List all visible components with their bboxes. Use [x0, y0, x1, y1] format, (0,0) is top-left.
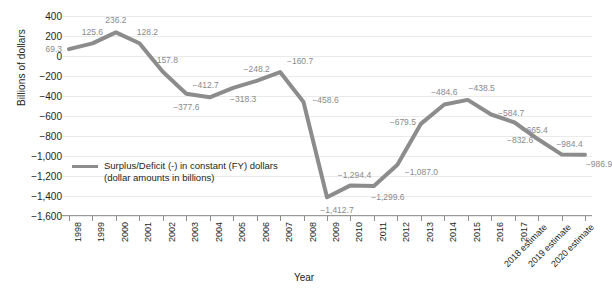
x-tick-label: 2016: [495, 222, 505, 242]
y-tick-label: −200: [16, 71, 62, 82]
data-point-label: −1,294.4: [338, 170, 371, 180]
x-tick-label: 2013: [425, 222, 435, 242]
x-tick-label: 2009: [331, 222, 341, 242]
y-tick-label: −1,200: [16, 171, 62, 182]
y-tick-label: −600: [16, 111, 62, 122]
data-point-label: −986.9: [586, 159, 612, 169]
x-axis-tick: [139, 216, 140, 221]
data-point-label: 236.2: [105, 15, 126, 25]
data-point-label: −1,299.6: [371, 192, 404, 202]
x-axis-tick: [163, 216, 164, 221]
y-tick-label: −800: [16, 131, 62, 142]
x-axis-tick: [421, 216, 422, 221]
x-tick-label: 2008: [308, 222, 318, 242]
x-axis-tick: [186, 216, 187, 221]
x-axis-tick: [257, 216, 258, 221]
x-tick-label: 2001: [143, 222, 153, 242]
x-tick-label: 2014: [448, 222, 458, 242]
x-tick-label: 2000: [120, 222, 130, 242]
first-point-label: 69.3: [16, 44, 62, 54]
data-point-label: −160.7: [287, 56, 313, 66]
data-point-label: −832.6: [507, 135, 533, 145]
x-axis-tick: [491, 216, 492, 221]
x-tick-label: 2012: [401, 222, 411, 242]
x-tick-label: 1999: [96, 222, 106, 242]
x-tick-label: 2011: [378, 222, 388, 241]
y-tick-label: 200: [16, 31, 62, 42]
x-axis-tick: [538, 216, 539, 221]
y-tick-label: −1,600: [16, 211, 62, 222]
data-point-label: −584.7: [498, 108, 524, 118]
y-tick-label: −1,000: [16, 151, 62, 162]
x-axis-tick: [69, 216, 70, 221]
x-axis-tick: [374, 216, 375, 221]
data-point-label: −438.5: [469, 83, 495, 93]
data-point-label: −665.4: [522, 125, 548, 135]
x-tick-label: 2007: [284, 222, 294, 242]
data-point-label: −377.6: [173, 102, 199, 112]
x-axis-tick: [350, 216, 351, 221]
x-axis-tick: [468, 216, 469, 221]
y-tick-label: −1,400: [16, 191, 62, 202]
x-axis-title: Year: [0, 272, 608, 283]
x-tick-label: 2015: [472, 222, 482, 242]
data-point-label: −248.2: [244, 64, 270, 74]
x-tick-label: 2003: [190, 222, 200, 242]
y-tick-label: −400: [16, 91, 62, 102]
data-point-label: −412.7: [193, 80, 219, 90]
x-axis-tick: [397, 216, 398, 221]
data-point-label: 125.6: [82, 27, 103, 37]
y-axis-tick-labels: 4002000−200−400−600−800−1,000−1,200−1,40…: [0, 0, 62, 297]
x-axis-tick: [233, 216, 234, 221]
data-point-label: −458.6: [312, 95, 338, 105]
x-axis-tick: [304, 216, 305, 221]
data-point-label: −484.6: [431, 87, 457, 97]
x-axis-tick: [515, 216, 516, 221]
x-axis-tick: [280, 216, 281, 221]
data-point-label: −984.4: [556, 139, 582, 149]
data-point-label: 128.2: [137, 27, 158, 37]
x-axis-tick: [92, 216, 93, 221]
y-tick-label: 400: [16, 11, 62, 22]
legend-label-2: (dollar amounts in billions): [104, 172, 278, 184]
data-point-label: −318.3: [230, 94, 256, 104]
x-tick-label: 2002: [167, 222, 177, 242]
data-point-label: −1,087.0: [405, 167, 438, 177]
x-axis-tick: [327, 216, 328, 221]
x-axis-tick: [116, 216, 117, 221]
x-tick-label: 2004: [214, 222, 224, 242]
x-axis-tick: [210, 216, 211, 221]
x-tick-label: 2006: [261, 222, 271, 242]
plot-area: 125.6236.2128.2−157.8−377.6−412.7−318.3−…: [62, 16, 592, 216]
data-point-label: −679.5: [390, 117, 416, 127]
x-axis-tick: [562, 216, 563, 221]
x-tick-label: 2005: [237, 222, 247, 242]
x-tick-label: 1998: [73, 222, 83, 242]
data-point-label: −157.8: [152, 55, 178, 65]
legend-swatch-line: [72, 165, 98, 169]
legend: Surplus/Deficit (-) in constant (FY) dol…: [72, 160, 278, 184]
x-axis-tick: [444, 216, 445, 221]
x-tick-label: 2010: [354, 222, 364, 242]
x-axis-tick: [585, 216, 586, 221]
legend-label-1: Surplus/Deficit (-) in constant (FY) dol…: [104, 160, 278, 171]
